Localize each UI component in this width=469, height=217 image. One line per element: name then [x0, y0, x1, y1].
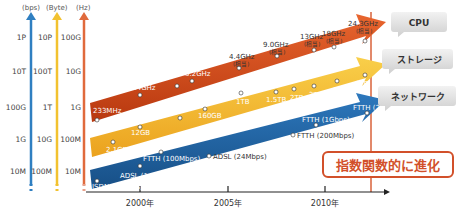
byte-tick: 10G	[37, 135, 53, 144]
storage-point-label: 160GB	[198, 112, 222, 120]
cpu-point-label: 4.4GHz	[229, 53, 255, 61]
bps-tick: 10T	[12, 67, 27, 76]
cpu-point-label: 18GHz	[322, 30, 346, 38]
bps-tick: 1G	[15, 135, 26, 144]
cpu-point-note: (相当)	[304, 40, 320, 48]
arrow-up-icon	[26, 12, 36, 20]
arrow-right-icon	[384, 189, 390, 195]
arrow-up-icon	[79, 12, 89, 20]
bps-tick: 1P	[17, 33, 27, 42]
storage-point-label: 12GB	[131, 129, 150, 137]
cpu-point-label: 233MHz	[93, 107, 122, 115]
byte-tick: 1T	[43, 103, 53, 112]
legend-cpu-label: CPU	[409, 18, 430, 28]
legend-network-label: ネットワーク	[391, 92, 445, 102]
bps-tick: 100G	[6, 103, 26, 112]
hz-tick: 100G	[61, 33, 81, 42]
bps-unit-label: (bps)	[22, 4, 40, 12]
legend-storage: ストレージ	[382, 49, 453, 74]
network-point-label: FTTH (200Mbps)	[297, 132, 354, 140]
storage-point-label: 2.1GB	[106, 146, 128, 154]
legend-cpu: CPU	[391, 12, 447, 37]
arrow-up-icon	[52, 12, 62, 20]
bps-tick: 10M	[10, 167, 26, 176]
cpu-point-note: (相当)	[233, 60, 249, 68]
network-point-label: ADSL (24Mbps)	[213, 153, 267, 161]
banner-text: 指数関数的に進化	[336, 158, 440, 173]
cpu-point-note: (相当)	[356, 27, 372, 35]
network-point-label: FTTH (1Gbps)	[302, 116, 350, 124]
cpu-point-label: 9.0GHz	[263, 41, 289, 49]
byte-tick: 10P	[38, 33, 53, 42]
hz-tick: 10G	[66, 67, 82, 76]
byte-tick: 100M	[31, 167, 52, 176]
year-2010-label: 2010年	[311, 198, 339, 208]
byte-unit-label: (Byte)	[46, 4, 68, 12]
year-2005-label: 2005年	[214, 198, 242, 208]
network-point-label: ADSL (1.5Mbps)	[120, 172, 176, 180]
hz-tick: 1G	[70, 103, 81, 112]
storage-point-label: 2TB	[290, 94, 304, 102]
network-point-label: FTTH (100Mbps)	[143, 155, 200, 163]
legend-storage-label: ストレージ	[397, 55, 442, 65]
bps-axis: (bps) 1P 10T 100G 1G 10M	[6, 4, 40, 191]
storage-point-label: 1TB	[236, 98, 250, 106]
cpu-point-note: (相当)	[326, 37, 342, 45]
cpu-point-label: 13GHz	[300, 33, 324, 41]
exponential-growth-chart: (bps) 1P 10T 100G 1G 10M (Byte) 10P 100T…	[0, 0, 469, 217]
network-point-label: ISDN (64Kbps)	[92, 183, 143, 191]
cpu-point-label: 3.2GHz	[185, 70, 211, 78]
year-2000-label: 2000年	[126, 198, 154, 208]
hz-axis: (Hz) 100G 10G 1G 100M 10M	[60, 4, 90, 191]
byte-tick: 100T	[33, 67, 52, 76]
hz-unit-label: (Hz)	[76, 4, 91, 12]
storage-point-label: 1.5TB	[266, 96, 286, 104]
storage-point-label: 6TB	[355, 80, 369, 88]
hz-tick: 100M	[60, 135, 81, 144]
cpu-point-label: 1.4GHz	[130, 84, 156, 92]
storage-point-label: 3TB	[309, 91, 323, 99]
cpu-point-label: 24.3GHz	[348, 20, 378, 28]
exponential-growth-banner: 指数関数的に進化	[323, 152, 453, 177]
hz-tick: 10M	[65, 167, 81, 176]
storage-point-label: 4TB	[332, 86, 346, 94]
cpu-point-note: (相当)	[269, 48, 285, 56]
